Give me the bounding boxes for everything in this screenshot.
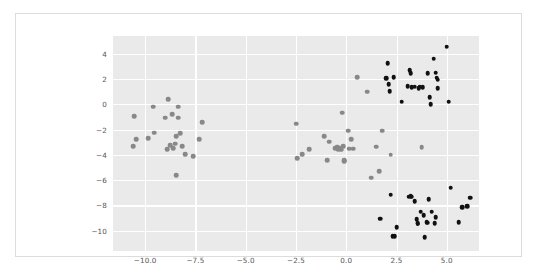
scatter-point xyxy=(171,146,176,151)
scatter-point xyxy=(131,144,136,149)
scatter-point xyxy=(365,89,370,94)
y-axis-tick-label: −8 xyxy=(81,201,107,210)
scatter-point xyxy=(432,221,437,226)
scatter-point xyxy=(388,153,393,158)
scatter-point xyxy=(374,144,379,149)
gridline-horizontal xyxy=(113,231,479,232)
scatter-point xyxy=(132,114,137,119)
scatter-point xyxy=(369,175,374,180)
scatter-point xyxy=(385,61,390,66)
scatter-point xyxy=(431,56,436,61)
scatter-point xyxy=(392,234,397,239)
scatter-point xyxy=(176,115,181,120)
scatter-point xyxy=(433,70,438,75)
scatter-point xyxy=(191,154,196,159)
scatter-point xyxy=(433,215,438,220)
scatter-point xyxy=(425,71,430,76)
scatter-point xyxy=(394,225,399,230)
scatter-point xyxy=(307,147,312,152)
scatter-point xyxy=(386,82,391,87)
scatter-point xyxy=(346,129,351,134)
scatter-point xyxy=(151,105,156,110)
x-axis-tick-label: 2.5 xyxy=(391,256,403,265)
scatter-plot-area xyxy=(113,36,479,251)
gridline-horizontal xyxy=(113,205,479,206)
scatter-point xyxy=(200,120,205,125)
x-axis-tick-label: 0.0 xyxy=(340,256,352,265)
scatter-point xyxy=(388,192,393,197)
scatter-point xyxy=(387,89,392,94)
gridline-vertical xyxy=(296,36,297,251)
scatter-point xyxy=(460,205,465,210)
x-axis-tick-label: −7.5 xyxy=(186,256,204,265)
scatter-point xyxy=(342,158,347,163)
scatter-point xyxy=(421,213,426,218)
scatter-point xyxy=(152,130,157,135)
y-axis-tick-label: 2 xyxy=(81,75,107,84)
scatter-point xyxy=(391,75,396,80)
gridline-vertical xyxy=(397,36,398,251)
y-axis-tick-label: 4 xyxy=(81,49,107,58)
screenshot-root: −10.0−7.5−5.0−2.50.02.55.0420−2−4−6−8−10 xyxy=(0,0,537,270)
scatter-point xyxy=(380,129,385,134)
scatter-point xyxy=(468,196,473,201)
scatter-point xyxy=(322,134,327,139)
scatter-point xyxy=(425,220,430,225)
gridline-horizontal xyxy=(113,130,479,131)
gridline-vertical xyxy=(195,36,196,251)
y-axis-tick-label: −2 xyxy=(81,125,107,134)
scatter-point xyxy=(340,110,345,115)
scatter-point xyxy=(422,235,427,240)
scatter-point xyxy=(384,76,389,81)
gridline-horizontal xyxy=(113,104,479,105)
scatter-point xyxy=(377,169,382,174)
scatter-point xyxy=(134,137,139,142)
scatter-point xyxy=(163,115,168,120)
scatter-point xyxy=(325,158,330,163)
scatter-point xyxy=(465,204,470,209)
scatter-point xyxy=(178,131,183,136)
x-axis-tick-label: −10.0 xyxy=(134,256,157,265)
scatter-point xyxy=(378,216,383,221)
scatter-point xyxy=(399,99,404,104)
scatter-point xyxy=(428,102,433,107)
gridline-vertical xyxy=(246,36,247,251)
scatter-point xyxy=(447,99,452,104)
y-axis-tick-label: −4 xyxy=(81,150,107,159)
scatter-point xyxy=(412,199,417,204)
scatter-point xyxy=(349,137,354,142)
gridline-horizontal xyxy=(113,79,479,80)
scatter-point xyxy=(295,156,300,161)
gridline-horizontal xyxy=(113,180,479,181)
scatter-point xyxy=(445,44,450,49)
scatter-point xyxy=(435,77,440,82)
scatter-point xyxy=(341,144,346,149)
scatter-point xyxy=(408,71,413,76)
scatter-point xyxy=(294,122,299,127)
y-axis-tick-label: −10 xyxy=(81,226,107,235)
chart-figure-frame: −10.0−7.5−5.0−2.50.02.55.0420−2−4−6−8−10 xyxy=(15,13,522,257)
x-axis-tick-label: −5.0 xyxy=(237,256,255,265)
x-axis-tick-label: −2.5 xyxy=(287,256,305,265)
scatter-point xyxy=(426,197,431,202)
scatter-point xyxy=(429,209,434,214)
y-axis-tick-label: 0 xyxy=(81,100,107,109)
gridline-horizontal xyxy=(113,54,479,55)
scatter-point xyxy=(180,144,185,149)
scatter-point xyxy=(427,95,432,100)
scatter-point xyxy=(170,112,175,117)
scatter-point xyxy=(415,221,420,226)
scatter-point xyxy=(457,220,462,225)
scatter-point xyxy=(166,97,171,102)
scatter-point xyxy=(435,86,440,91)
gridline-vertical xyxy=(346,36,347,251)
scatter-point xyxy=(449,185,454,190)
gridline-vertical xyxy=(145,36,146,251)
scatter-point xyxy=(351,146,356,151)
scatter-point xyxy=(174,173,179,178)
y-axis-tick-label: −6 xyxy=(81,176,107,185)
scatter-point xyxy=(420,85,425,90)
x-axis-tick-label: 5.0 xyxy=(441,256,453,265)
scatter-point xyxy=(183,152,188,157)
scatter-point xyxy=(173,141,178,146)
